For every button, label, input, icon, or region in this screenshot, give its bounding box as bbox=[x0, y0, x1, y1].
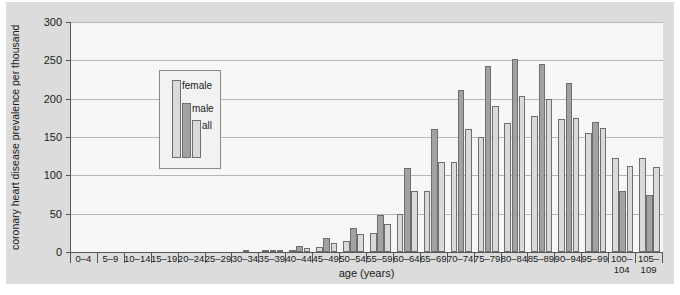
bar-group bbox=[286, 22, 313, 252]
bar-female bbox=[397, 214, 404, 252]
bar-group bbox=[582, 22, 609, 252]
x-tick-label: 35–39 bbox=[258, 253, 285, 264]
x-tick-label: 60–64 bbox=[393, 253, 420, 264]
y-tick-label: 0 bbox=[34, 246, 62, 258]
x-tick-label: 15–19 bbox=[151, 253, 178, 264]
bar-female bbox=[262, 250, 269, 252]
bar-male bbox=[270, 250, 277, 252]
bar-group bbox=[394, 22, 421, 252]
x-tick-label: 45–49 bbox=[312, 253, 339, 264]
y-axis-title: coronary heart disease prevalence per th… bbox=[8, 22, 22, 252]
bar-male bbox=[592, 122, 599, 252]
bar-all bbox=[357, 234, 364, 252]
bar-group bbox=[259, 22, 286, 252]
y-tick-label: 250 bbox=[34, 54, 62, 66]
bar-female bbox=[370, 233, 377, 252]
bar-group bbox=[313, 22, 340, 252]
bar-female bbox=[531, 116, 538, 252]
bar-group bbox=[555, 22, 582, 252]
bar-all bbox=[492, 106, 499, 252]
bar-group bbox=[71, 22, 98, 252]
bar-all bbox=[411, 191, 418, 252]
legend-label-all: all bbox=[202, 120, 212, 131]
plot-area: femalemaleall bbox=[70, 22, 663, 253]
x-tick-label: 50–54 bbox=[339, 253, 366, 264]
bar-male bbox=[323, 238, 330, 252]
x-tick-label: 75–79 bbox=[474, 253, 501, 264]
x-tick-label: 20–24 bbox=[178, 253, 205, 264]
bar-male bbox=[539, 64, 546, 252]
chart-figure: coronary heart disease prevalence per th… bbox=[0, 0, 680, 295]
bar-group bbox=[502, 22, 529, 252]
x-tick-label: 55–59 bbox=[366, 253, 393, 264]
chart-panel: coronary heart disease prevalence per th… bbox=[6, 2, 674, 284]
y-tick-label: 100 bbox=[34, 169, 62, 181]
bar-male bbox=[458, 90, 465, 252]
bar-female bbox=[612, 158, 619, 252]
bar-male bbox=[296, 246, 303, 252]
bar-all bbox=[331, 243, 338, 252]
x-tick-label: 40–44 bbox=[285, 253, 312, 264]
bar-group bbox=[125, 22, 152, 252]
bar-male bbox=[485, 66, 492, 252]
bar-male bbox=[377, 215, 384, 252]
bar-all bbox=[465, 129, 472, 252]
bar-male bbox=[566, 83, 573, 252]
legend-swatch-female bbox=[172, 80, 181, 158]
y-tick-label: 300 bbox=[34, 16, 62, 28]
bar-all bbox=[573, 118, 580, 252]
bar-all bbox=[627, 166, 634, 252]
y-tick-label: 150 bbox=[34, 131, 62, 143]
bar-group bbox=[609, 22, 636, 252]
bar-female bbox=[585, 133, 592, 252]
x-tick-label: 90–94 bbox=[554, 253, 581, 264]
x-tick-label: 65–69 bbox=[420, 253, 447, 264]
bar-all bbox=[438, 162, 445, 252]
x-tick-label: 5–9 bbox=[97, 253, 124, 264]
bar-group bbox=[340, 22, 367, 252]
bar-male bbox=[350, 228, 357, 252]
bar-all bbox=[519, 96, 526, 252]
bar-group bbox=[448, 22, 475, 252]
bar-male bbox=[619, 191, 626, 252]
legend-swatch-male bbox=[182, 103, 191, 158]
bar-all bbox=[600, 128, 607, 252]
bar-all bbox=[304, 248, 311, 252]
bar-all bbox=[277, 250, 284, 252]
legend-label-male: male bbox=[192, 103, 214, 114]
bar-female bbox=[289, 250, 296, 252]
chart-legend: femalemaleall bbox=[159, 70, 221, 169]
bar-male bbox=[512, 59, 519, 252]
x-tick-separator bbox=[662, 253, 663, 263]
bar-female bbox=[504, 123, 511, 252]
x-tick-label: 10–14 bbox=[124, 253, 151, 264]
bar-female bbox=[451, 162, 458, 252]
bar-female bbox=[424, 191, 431, 252]
legend-swatch-all bbox=[192, 120, 201, 158]
legend-label-female: female bbox=[182, 80, 212, 91]
bar-female bbox=[639, 158, 646, 252]
bar-male bbox=[646, 195, 653, 253]
x-tick-label: 25–29 bbox=[205, 253, 232, 264]
bar-male bbox=[404, 168, 411, 252]
bar-male bbox=[431, 129, 438, 252]
x-tick-label: 85–89 bbox=[527, 253, 554, 264]
bar-all bbox=[653, 167, 660, 252]
bar-group bbox=[528, 22, 555, 252]
bar-female bbox=[558, 119, 565, 252]
x-tick-label: 70–74 bbox=[447, 253, 474, 264]
bar-group bbox=[367, 22, 394, 252]
bar-group bbox=[232, 22, 259, 252]
x-axis-title: age (years) bbox=[70, 267, 663, 279]
bar-male bbox=[243, 250, 250, 252]
bar-group bbox=[98, 22, 125, 252]
y-tick-label: 200 bbox=[34, 93, 62, 105]
x-axis: 0–45–910–1415–1920–2425–2930–3435–3940–4… bbox=[70, 253, 663, 265]
x-tick-label: 95–99 bbox=[581, 253, 608, 264]
bar-group bbox=[475, 22, 502, 252]
bar-all bbox=[546, 99, 553, 252]
y-tick-label: 50 bbox=[34, 208, 62, 220]
bar-female bbox=[478, 137, 485, 252]
bar-group bbox=[421, 22, 448, 252]
bar-female bbox=[316, 247, 323, 252]
